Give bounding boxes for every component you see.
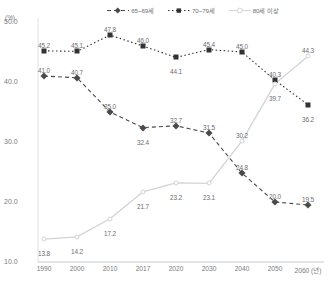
y-tick-label: 10.0 (4, 258, 36, 265)
data-label: 46.0 (137, 37, 149, 44)
legend-item-2[interactable]: 70~79세 (168, 6, 215, 15)
data-point-marker (240, 50, 245, 55)
y-tick-label: 50.0 (4, 18, 36, 25)
data-label: 23.1 (203, 194, 215, 201)
data-label: 13.8 (38, 250, 50, 257)
data-point-marker (273, 81, 278, 86)
legend-item-1[interactable]: 65~69세 (107, 6, 154, 15)
series-line-3 (44, 56, 308, 239)
data-point-marker (306, 54, 311, 59)
square-marker-icon (168, 6, 190, 15)
data-point-marker (306, 102, 311, 107)
plot-area: 41.040.735.032.432.731.524.820.019.545.2… (38, 22, 324, 262)
legend-item-3[interactable]: 80세 이상 (229, 6, 279, 15)
data-label: 36.2 (302, 116, 314, 123)
x-tick-label: 2060 (년) (295, 265, 322, 275)
chart-legend: 65~69세70~79세80세 이상 (62, 3, 324, 17)
data-label: 45.0 (236, 43, 248, 50)
data-point-marker (174, 180, 179, 185)
data-point-marker (240, 138, 245, 143)
data-point-marker (108, 33, 113, 38)
legend-label: 80세 이상 (253, 6, 279, 15)
diamond-marker-icon (107, 6, 129, 15)
data-label: 32.4 (137, 139, 149, 146)
x-tick-label: 2017 (136, 265, 151, 272)
data-point-marker (207, 181, 212, 186)
data-label: 23.2 (170, 194, 182, 201)
x-tick-label: 2000 (70, 265, 85, 272)
x-tick-label: 2010 (103, 265, 118, 272)
data-label: 44.1 (170, 68, 182, 75)
data-label: 20.0 (269, 193, 281, 200)
data-point-marker (174, 55, 179, 60)
data-label: 41.0 (38, 67, 50, 74)
data-point-marker (42, 237, 47, 242)
y-tick-label: 40.0 (4, 78, 36, 85)
data-label: 17.2 (104, 230, 116, 237)
data-point-marker (75, 234, 80, 239)
circle-marker-icon (229, 6, 251, 15)
data-label: 32.7 (170, 117, 182, 124)
x-tick-label: 2020 (169, 265, 184, 272)
data-label: 44.3 (302, 47, 314, 54)
x-tick-label: 1990 (37, 265, 52, 272)
data-point-marker (141, 44, 146, 49)
x-tick-label: 2050 (268, 265, 283, 272)
data-label: 47.8 (104, 26, 116, 33)
legend-label: 65~69세 (131, 6, 154, 15)
data-point-marker (108, 216, 113, 221)
data-label: 30.2 (236, 132, 248, 139)
data-point-marker (141, 189, 146, 194)
data-label: 45.1 (71, 42, 83, 49)
data-label: 40.7 (71, 69, 83, 76)
x-tick-label: 2030 (202, 265, 217, 272)
data-point-marker (207, 47, 212, 52)
data-label: 35.0 (104, 103, 116, 110)
data-label: 40.3 (269, 71, 281, 78)
data-label: 19.5 (302, 196, 314, 203)
series-lines (38, 22, 324, 262)
data-label: 45.2 (38, 42, 50, 49)
data-label: 39.7 (269, 95, 281, 102)
y-tick-label: 20.0 (4, 198, 36, 205)
data-label: 14.2 (71, 248, 83, 255)
legend-label: 70~79세 (192, 6, 215, 15)
y-tick-label: 30.0 (4, 138, 36, 145)
data-point-marker (75, 49, 80, 54)
data-label: 24.8 (236, 164, 248, 171)
x-tick-label: 2040 (235, 265, 250, 272)
line-chart: (%) 65~69세70~79세80세 이상 50.040.030.020.01… (0, 0, 328, 290)
data-label: 21.7 (137, 203, 149, 210)
data-label: 31.5 (203, 124, 215, 131)
data-point-marker (42, 48, 47, 53)
data-label: 45.4 (203, 41, 215, 48)
